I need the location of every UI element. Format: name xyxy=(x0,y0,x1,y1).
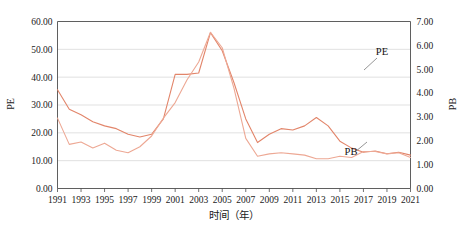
series-annotation-pe: PE xyxy=(376,46,388,57)
y-axis-left-tick-label: 50.00 xyxy=(31,45,53,55)
y-axis-left-tick-label: 20.00 xyxy=(31,128,53,138)
y-axis-left-tick-label: 40.00 xyxy=(31,73,53,83)
x-axis-tick-label: 2015 xyxy=(330,195,349,205)
y-axis-left-tick-label: 0.00 xyxy=(36,184,53,194)
x-axis-tick-label: 2009 xyxy=(260,195,279,205)
y-axis-left-tick-label: 10.00 xyxy=(31,156,53,166)
x-axis-tick-label: 2003 xyxy=(189,195,208,205)
y-axis-right-tick-label: 3.00 xyxy=(417,112,434,122)
x-axis-tick-label: 2011 xyxy=(284,195,303,205)
y-axis-left-title: PE xyxy=(5,98,16,110)
x-axis-tick-label: 2005 xyxy=(213,195,232,205)
x-axis-tick-label: 2001 xyxy=(166,195,185,205)
chart-background xyxy=(0,0,468,235)
x-axis-tick-label: 2021 xyxy=(401,195,420,205)
x-axis-tick-label: 2013 xyxy=(307,195,326,205)
x-axis-tick-label: 1997 xyxy=(119,195,138,205)
y-axis-right-tick-label: 6.00 xyxy=(417,41,434,51)
y-axis-right-tick-label: 7.00 xyxy=(417,17,434,27)
y-axis-right-tick-label: 4.00 xyxy=(417,88,434,98)
x-axis-tick-label: 1991 xyxy=(48,195,67,205)
y-axis-left-tick-label: 60.00 xyxy=(31,17,53,27)
pe-pb-line-chart: 0.0010.0020.0030.0040.0050.0060.00 0.001… xyxy=(0,0,468,235)
x-axis-title: 时间（年） xyxy=(209,209,259,221)
x-axis-tick-label: 1995 xyxy=(95,195,114,205)
y-axis-right-tick-label: 1.00 xyxy=(417,160,434,170)
x-axis-tick-label: 2017 xyxy=(354,195,373,205)
x-axis-tick-label: 2019 xyxy=(377,195,396,205)
series-annotation-pb: PB xyxy=(345,146,358,157)
y-axis-right-tick-label: 2.00 xyxy=(417,136,434,146)
y-axis-right-tick-label: 0.00 xyxy=(417,184,434,194)
x-axis-tick-label: 1999 xyxy=(142,195,161,205)
y-axis-right-tick-label: 5.00 xyxy=(417,65,434,75)
x-axis-tick-label: 1993 xyxy=(72,195,91,205)
chart-container: 0.0010.0020.0030.0040.0050.0060.00 0.001… xyxy=(0,0,468,235)
x-axis-tick-label: 2007 xyxy=(236,195,255,205)
y-axis-right-title: PB xyxy=(447,98,458,111)
y-axis-left-tick-label: 30.00 xyxy=(31,100,53,110)
